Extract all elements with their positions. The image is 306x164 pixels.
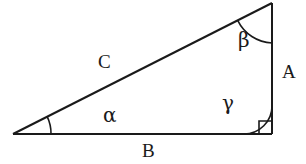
side-label-a: A [282,62,296,81]
angle-label-gamma: γ [222,93,234,113]
side-label-b: B [142,141,155,160]
side-label-c: C [98,52,111,71]
angle-label-alpha: α [103,105,117,125]
angle-label-beta: β [238,30,250,50]
angle-gamma-arc [244,106,272,134]
triangle-diagram: C A B α β γ [0,0,306,164]
angle-alpha-arc [47,117,51,134]
